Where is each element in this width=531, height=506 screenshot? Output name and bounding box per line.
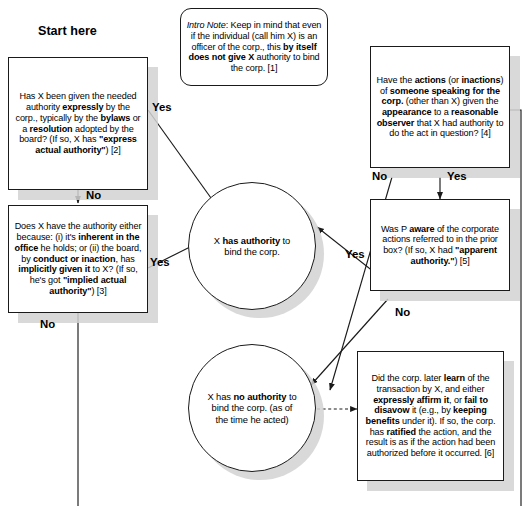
- edge-label-implied-yes: Yes: [150, 256, 170, 268]
- flowchart-canvas: Start here Intro Note: Keep in mind that…: [0, 0, 531, 506]
- intro-note-text: Intro Note: Keep in mind that even if th…: [186, 20, 322, 74]
- box-implied-authority: Does X have the authority either because…: [8, 205, 148, 313]
- box-ratification-text: Did the corp. later learn of the transac…: [363, 373, 498, 459]
- box-implied-authority-text: Does X have the authority either because…: [14, 221, 142, 296]
- circle-has-authority-text: X has authority to bind the corp.: [194, 235, 310, 257]
- box-express-authority: Has X been given the needed authority ex…: [8, 57, 148, 190]
- edge-label-aware-no: No: [395, 306, 410, 318]
- circle-has-authority: X has authority to bind the corp.: [188, 182, 316, 310]
- box-apparent-actions: Have the actions (or inactions) of someo…: [370, 46, 510, 168]
- box-apparent-actions-text: Have the actions (or inactions) of someo…: [376, 75, 504, 139]
- circle-no-authority: X has no authority to bind the corp. (as…: [188, 344, 316, 472]
- intro-note-box: Intro Note: Keep in mind that even if th…: [180, 8, 328, 86]
- box-ratification: Did the corp. later learn of the transac…: [357, 351, 504, 481]
- edge-label-express-yes: Yes: [152, 101, 172, 113]
- circle-no-authority-text: X has no authority to bind the corp. (as…: [194, 391, 310, 424]
- edge-label-implied-no: No: [40, 318, 55, 330]
- edge-label-actions-yes: Yes: [447, 170, 467, 182]
- start-here-heading: Start here: [38, 24, 97, 38]
- edge-label-express-no: No: [86, 189, 101, 201]
- box-p-aware: Was P aware of the corporate actions ref…: [370, 199, 510, 291]
- edge-label-actions-no: No: [372, 170, 387, 182]
- box-express-authority-text: Has X been given the needed authority ex…: [14, 91, 142, 155]
- edge-express-yes: [148, 110, 216, 205]
- box-p-aware-text: Was P aware of the corporate actions ref…: [376, 224, 504, 267]
- edge-label-aware-yes: Yes: [345, 248, 365, 260]
